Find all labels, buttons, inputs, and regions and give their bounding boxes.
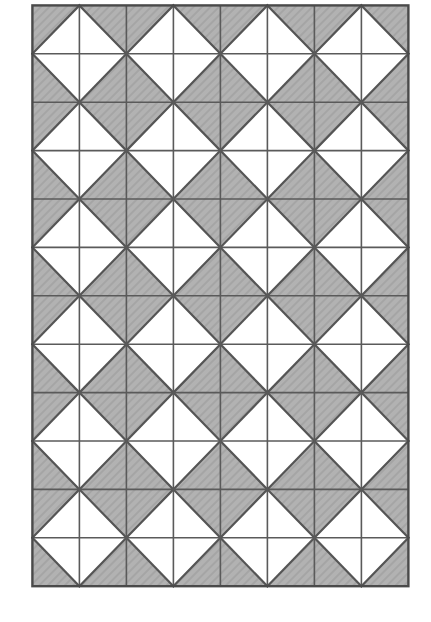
tiling-pattern-svg — [30, 3, 411, 589]
pattern-figure — [0, 0, 431, 622]
